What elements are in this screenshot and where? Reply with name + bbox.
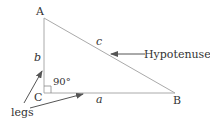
side-b-label: b [34, 51, 41, 64]
side-a-label: a [96, 93, 103, 106]
vertex-a-label: A [35, 5, 45, 18]
vertex-b-label: B [173, 94, 181, 107]
right-triangle-diagram: A B C b c a 90° Hypotenuse legs [0, 0, 210, 121]
right-angle-label: 90° [53, 76, 71, 87]
legs-label: legs [11, 106, 34, 119]
side-c-label: c [96, 35, 102, 48]
hypotenuse-label: Hypotenuse [144, 48, 210, 61]
right-angle-marker [44, 86, 51, 93]
vertex-c-label: C [34, 91, 42, 104]
